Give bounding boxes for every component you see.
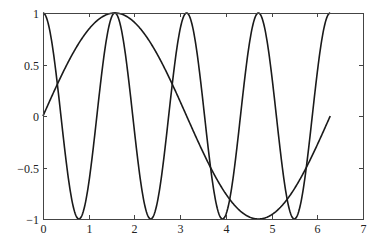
y-tick-label: −1 bbox=[26, 213, 39, 227]
plot-frame bbox=[44, 14, 364, 220]
axis-ticks bbox=[43, 13, 364, 220]
y-tick-label: 0 bbox=[33, 110, 39, 124]
y-tick-label: 0.5 bbox=[24, 59, 39, 73]
tick-labels: 01234567−1−0.500.51 bbox=[17, 7, 366, 237]
x-tick-label: 4 bbox=[224, 222, 230, 236]
x-tick-label: 0 bbox=[41, 222, 47, 236]
line-chart: 01234567−1−0.500.51 bbox=[0, 0, 383, 246]
x-tick-label: 2 bbox=[132, 222, 138, 236]
x-tick-label: 1 bbox=[87, 222, 93, 236]
x-tick-label: 3 bbox=[178, 222, 184, 236]
x-tick-label: 6 bbox=[315, 222, 321, 236]
series-sin-curve bbox=[43, 13, 330, 219]
plot-curves bbox=[43, 13, 330, 219]
x-tick-label: 5 bbox=[270, 222, 276, 236]
y-tick-label: 1 bbox=[33, 7, 39, 21]
x-tick-label: 7 bbox=[361, 222, 367, 236]
y-tick-label: −0.5 bbox=[17, 162, 39, 176]
